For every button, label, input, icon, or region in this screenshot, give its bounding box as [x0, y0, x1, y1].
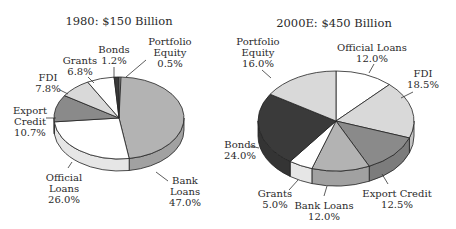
leader-line — [156, 172, 168, 181]
leader-line — [324, 186, 327, 196]
leader-line — [369, 64, 374, 73]
slice-label-bonds: Bonds 24.0% — [224, 139, 256, 161]
slice-label-bank-loans: Bank Loans 12.0% — [294, 200, 353, 222]
slice-label-grants: Grants 6.8% — [63, 55, 97, 77]
leader-line — [60, 90, 68, 94]
slice-label-export-credit: Export Credit 12.5% — [362, 188, 431, 210]
leader-line — [262, 70, 271, 78]
slice-label-official-loans: Official Loans 12.0% — [337, 42, 407, 64]
pie-1 — [250, 64, 414, 196]
chart-stage: 1980: $150 Billion 2000E: $450 Billion P… — [0, 0, 456, 229]
leader-line — [382, 174, 388, 184]
chart-title-1980: 1980: $150 Billion — [65, 14, 172, 28]
slice-label-grants: Grants 5.0% — [258, 188, 292, 210]
slice-label-portfolio-equity: Portfolio Equity 16.0% — [236, 36, 279, 69]
slice-label-bonds: Bonds 1.2% — [98, 44, 129, 66]
slice-label-export-credit: Export Credit 10.7% — [13, 105, 47, 138]
pie-0 — [46, 60, 184, 181]
slice-label-bank-loans: Bank Loans 47.0% — [169, 175, 201, 208]
chart-title-2000e: 2000E: $450 Billion — [276, 16, 392, 30]
slice-label-portfolio-equity: Portfolio Equity 0.5% — [148, 36, 191, 69]
slice-label-fdi: FDI 18.5% — [407, 68, 439, 90]
slice-label-fdi: FDI 7.8% — [35, 72, 60, 94]
slice-label-official-loans: Official Loans 26.0% — [46, 172, 82, 205]
leader-line — [68, 162, 72, 168]
